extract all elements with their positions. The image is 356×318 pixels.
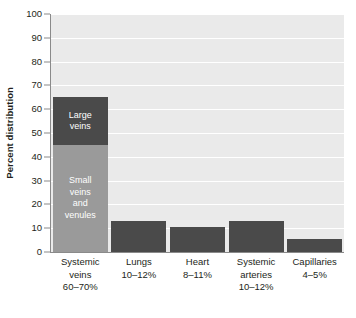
y-tick-label: 80 [31,57,42,67]
x-category-label-heart: Heart 8–11% [168,256,227,281]
y-tick-label: 90 [31,33,42,43]
y-axis-line [50,14,51,252]
x-category-label-systemic-arteries: Systemic arteries 10–12% [227,256,286,294]
y-axis-tick-labels: 100 90 80 70 60 50 40 30 20 10 0 [18,8,44,252]
gridline [51,38,344,39]
y-tick-label: 10 [31,223,42,233]
x-category-label-capillaries: Capillaries 4–5% [285,256,344,281]
x-axis-line [50,252,344,253]
y-tick-label: 0 [37,247,42,257]
y-tick-label: 40 [31,152,42,162]
y-tick-label: 100 [26,9,42,19]
y-tick-label: 60 [31,104,42,114]
bar-heart[interactable] [170,227,225,252]
percent-distribution-bar-chart: Percent distribution 100 90 80 70 60 50 … [0,0,356,318]
bar-segment-label: Small veins and venules [65,175,96,221]
y-axis-title-text: Percent distribution [4,87,15,179]
x-category-label-lungs: Lungs 10–12% [110,256,169,281]
y-tick-label: 50 [31,128,42,138]
x-category-label-systemic-veins: Systemic veins 60–70% [51,256,110,294]
bar-systemic-arteries[interactable] [229,221,284,252]
y-axis-title: Percent distribution [0,0,18,266]
bar-segment-label: Large veins [69,110,92,133]
gridline [51,85,344,86]
y-tick-label: 20 [31,200,42,210]
y-tick-label: 30 [31,176,42,186]
bar-capillaries[interactable] [287,239,342,252]
gridline [51,14,344,15]
bar-segment-large-veins: Large veins [53,97,108,145]
plot-area: Large veins Small veins and venules [51,14,344,252]
gridline [51,62,344,63]
bar-lungs[interactable] [111,221,166,252]
bar-segment-small-veins-and-venules: Small veins and venules [53,145,108,252]
bar-systemic-veins[interactable]: Large veins Small veins and venules [53,97,108,252]
y-tick-label: 70 [31,81,42,91]
